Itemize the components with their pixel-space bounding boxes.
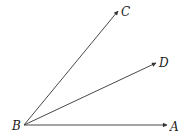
angle-diagram: B A C D [0,0,181,138]
label-a: A [169,120,179,134]
label-d: D [158,56,169,70]
label-b: B [11,119,21,133]
ray-bc [24,11,118,125]
ray-bd [24,63,156,125]
label-c: C [121,5,130,19]
